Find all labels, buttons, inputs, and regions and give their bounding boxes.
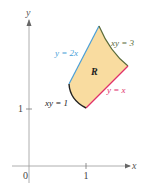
- x-tick-label-1: 1: [84, 170, 89, 181]
- y-axis-arrow-icon: [27, 19, 32, 26]
- label-xy-1: xy = 1: [44, 98, 68, 108]
- label-y-2x: y = 2x: [54, 48, 78, 58]
- region-label: R: [90, 66, 98, 77]
- label-xy-3: xy = 3: [110, 38, 135, 48]
- y-tick-label-1: 1: [18, 103, 23, 114]
- label-y-x: y = x: [106, 85, 126, 95]
- origin-label: 0: [23, 170, 28, 181]
- region-diagram: x y 0 1 1 R y = 2x xy = 3 y = x xy = 1: [0, 0, 144, 193]
- x-axis-label: x: [131, 160, 137, 171]
- y-axis-label: y: [25, 7, 31, 18]
- x-axis-arrow-icon: [125, 164, 131, 169]
